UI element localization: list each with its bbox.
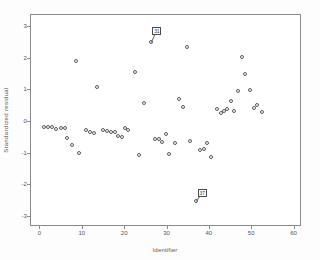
x-tick [124,225,125,229]
data-point [236,89,240,93]
y-tick [27,216,31,217]
y-tick [27,26,31,27]
data-point [205,141,209,145]
x-tick [167,225,168,229]
data-point [215,107,219,111]
data-point [260,110,264,114]
data-point [177,97,181,101]
data-point [160,140,164,144]
data-point [209,155,213,159]
data-point [188,139,192,143]
scatter-plot-figure: Standardized residual Identifier 3210-1-… [0,0,320,260]
data-point [142,101,146,105]
data-point [63,126,67,130]
y-tick-label: 3 [24,23,27,29]
data-point [185,45,189,49]
x-tick-label: 50 [248,230,255,236]
data-point [181,105,185,109]
y-tick-label: -2 [21,181,27,187]
y-tick-label: 2 [24,55,27,61]
data-point [65,136,69,140]
data-point [232,109,236,113]
data-point [137,153,141,157]
data-point [74,59,78,63]
x-tick [209,225,210,229]
y-tick-label: -1 [21,150,27,156]
x-tick-label: 60 [290,230,297,236]
data-point [248,88,252,92]
y-tick-label: -3 [21,213,27,219]
data-point [95,85,99,89]
x-tick [39,225,40,229]
data-point [167,152,171,156]
data-point [77,151,81,155]
x-tick [294,225,295,229]
y-tick [27,121,31,122]
data-point [229,99,233,103]
x-tick [82,225,83,229]
y-tick [27,58,31,59]
y-tick [27,184,31,185]
data-point [202,147,206,151]
data-point [126,128,130,132]
data-point [164,132,168,136]
x-tick-label: 10 [78,230,85,236]
y-tick-label: 0 [24,118,27,124]
x-tick-label: 0 [38,230,41,236]
outlier-case-label: 37 [198,189,207,197]
data-point [225,107,229,111]
x-tick-label: 40 [206,230,213,236]
data-point [240,55,244,59]
outlier-case-label: 31 [152,27,161,35]
data-point [243,72,247,76]
x-tick [251,225,252,229]
y-tick [27,153,31,154]
data-point [120,135,124,139]
y-tick-label: 1 [24,86,27,92]
data-point [173,141,177,145]
data-point [54,127,58,131]
data-point [92,131,96,135]
x-tick-label: 30 [163,230,170,236]
x-tick-label: 20 [121,230,128,236]
data-point [255,103,259,107]
plot-area: 3210-1-2-3 0102030405060 3137 [30,14,301,226]
x-axis-title: Identifier [152,247,177,253]
data-point [70,143,74,147]
data-point [133,70,137,74]
y-axis-title: Standardized residual [3,87,9,152]
y-tick [27,89,31,90]
